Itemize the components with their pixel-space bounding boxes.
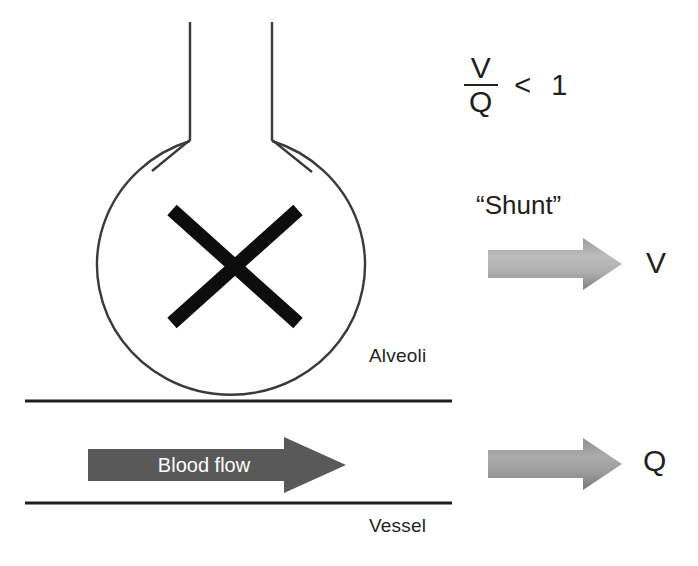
diagram-canvas: Blood flow Alveoli Vessel V Q < 1 “Shunt… [0, 0, 698, 566]
shunt-annotation-label: “Shunt” [476, 190, 561, 221]
ventilation-label: V [646, 246, 666, 280]
vq-ratio-expression: V Q < 1 [463, 52, 567, 118]
vessel-label: Vessel [369, 515, 426, 537]
alveolus-group: Blood flow Alveoli Vessel [0, 0, 440, 566]
ventilation-arrow-shape [488, 238, 622, 290]
blood-flow-arrow-shape [88, 437, 346, 493]
alveoli-label: Alveoli [369, 345, 426, 367]
perfusion-flow-arrow [488, 438, 622, 490]
vq-numerator: V [465, 52, 497, 84]
vq-denominator: Q [463, 86, 498, 118]
ventilation-flow-arrow [488, 238, 622, 290]
vq-fraction: V Q [463, 52, 498, 118]
vq-comparison-value: 1 [551, 69, 567, 102]
vq-comparison-operator: < [514, 69, 531, 102]
blocked-x-icon [172, 210, 298, 323]
perfusion-label: Q [643, 444, 666, 478]
blood-flow-arrow [88, 437, 346, 493]
perfusion-arrow-shape [488, 438, 622, 490]
